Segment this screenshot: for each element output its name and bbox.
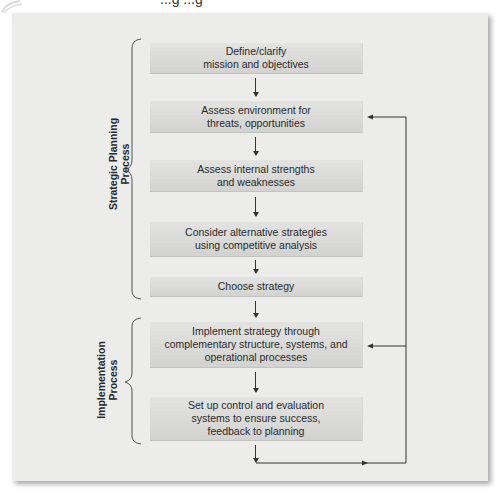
arrow-right-icon <box>362 461 368 466</box>
arrow-left-icon <box>367 115 373 120</box>
brace-implementation-icon <box>125 318 141 444</box>
arrow-left-icon <box>367 344 373 349</box>
brace-strategic-planning-icon <box>125 39 141 299</box>
feedback-line <box>256 117 406 463</box>
connectors-overlay <box>0 0 501 493</box>
